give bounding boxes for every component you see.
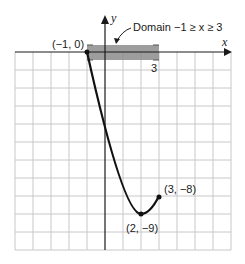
domain-annotation: Domain −1 ≥ x ≥ 3 [133, 21, 222, 33]
point-end [157, 195, 162, 200]
y-axis-label: y [110, 11, 117, 25]
graph-figure: y x Domain −1 ≥ x ≥ 3 (−1, 0) (2, −9) (3… [0, 0, 245, 264]
point-label-start: (−1, 0) [52, 38, 84, 50]
point-vertex [139, 212, 144, 217]
x-axis-label: x [221, 35, 228, 49]
point-label-end: (3, −8) [164, 183, 196, 195]
y-axis-arrow-icon [101, 15, 109, 24]
point-start [85, 50, 90, 55]
point-label-vertex: (2, −9) [126, 222, 158, 234]
domain-end-tick-label: 3 [151, 62, 157, 74]
annotation-arrowhead-icon [114, 38, 120, 44]
grid [15, 52, 231, 250]
